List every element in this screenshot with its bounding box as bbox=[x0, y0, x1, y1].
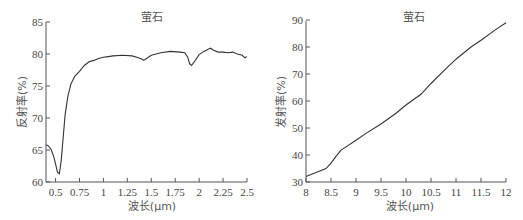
x-tick-label: 2.25 bbox=[213, 186, 233, 198]
x-tick-label: 0.5 bbox=[49, 186, 63, 198]
y-axis-title-left: 反射率(%) bbox=[15, 76, 29, 128]
x-tick-label: 1.75 bbox=[166, 186, 186, 198]
x-tick-label: 8.5 bbox=[324, 186, 338, 198]
y-tick-label: 90 bbox=[292, 14, 304, 26]
y-tick-label: 75 bbox=[32, 80, 44, 92]
x-tick-label: 11.5 bbox=[472, 186, 491, 198]
y-tick-label: 80 bbox=[292, 41, 304, 53]
x-ticks-left: 0.50.7511.251.51.7522.252.5 bbox=[49, 178, 255, 198]
chart-title-left: 萤石 bbox=[141, 11, 163, 24]
x-axis-title-right: 波长(μm) bbox=[386, 200, 434, 213]
reflectance-chart: 萤石 606570758085 0.50.7511.251.51.7522.25… bbox=[15, 11, 254, 213]
y-ticks-right: 30405060708090 bbox=[292, 14, 310, 188]
x-axis-title-left: 波长(μm) bbox=[128, 200, 176, 213]
y-tick-label: 70 bbox=[32, 112, 44, 124]
chart-canvas: 萤石 606570758085 0.50.7511.251.51.7522.25… bbox=[0, 0, 523, 220]
chart-title-right: 萤石 bbox=[403, 11, 425, 24]
x-tick-label: 2.5 bbox=[240, 186, 254, 198]
x-tick-label: 1.25 bbox=[118, 186, 138, 198]
y-tick-label: 65 bbox=[32, 144, 44, 156]
y-tick-label: 60 bbox=[32, 176, 44, 188]
x-tick-label: 12 bbox=[501, 186, 512, 198]
y-tick-label: 60 bbox=[292, 95, 304, 107]
x-tick-label: 2 bbox=[196, 186, 202, 198]
x-tick-label: 9.5 bbox=[374, 186, 388, 198]
y-tick-label: 30 bbox=[292, 176, 304, 188]
y-tick-label: 70 bbox=[292, 68, 304, 80]
y-ticks-left: 606570758085 bbox=[32, 16, 50, 188]
x-tick-label: 10 bbox=[401, 186, 413, 198]
y-tick-label: 80 bbox=[32, 48, 44, 60]
emissivity-line bbox=[306, 23, 506, 177]
y-tick-label: 50 bbox=[292, 122, 304, 134]
emissivity-chart: 萤石 30405060708090 88.599.51010.51111.512… bbox=[274, 11, 512, 213]
x-ticks-right: 88.599.51010.51111.512 bbox=[303, 178, 511, 198]
x-tick-label: 11 bbox=[451, 186, 462, 198]
x-tick-label: 9 bbox=[353, 186, 359, 198]
x-tick-label: 1.5 bbox=[144, 186, 158, 198]
y-axis-title-right: 发射率(%) bbox=[274, 76, 288, 128]
reflectance-line bbox=[46, 48, 247, 174]
x-tick-label: 10.5 bbox=[421, 186, 441, 198]
x-tick-label: 1 bbox=[101, 186, 107, 198]
y-tick-label: 40 bbox=[292, 149, 304, 161]
x-tick-label: 8 bbox=[303, 186, 309, 198]
y-tick-label: 85 bbox=[32, 16, 44, 28]
x-tick-label: 0.75 bbox=[70, 186, 90, 198]
